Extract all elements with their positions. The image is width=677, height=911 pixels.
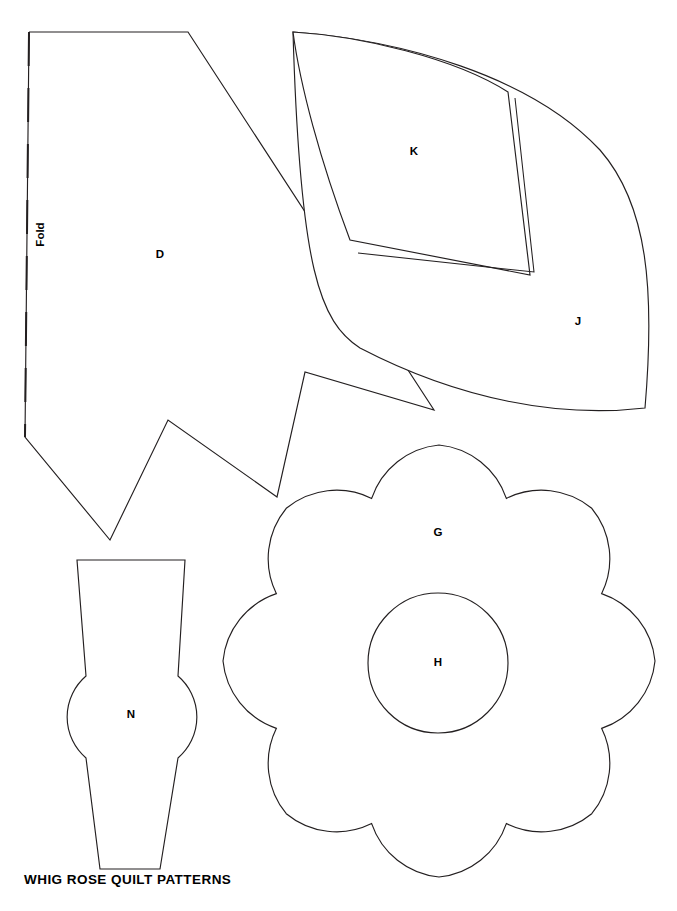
piece-j-label: J bbox=[575, 315, 581, 327]
pattern-sheet-drawing: D Fold J K G H N bbox=[0, 0, 677, 911]
piece-h-label: H bbox=[434, 656, 442, 668]
fold-label: Fold bbox=[34, 222, 46, 246]
piece-g-label: G bbox=[434, 526, 443, 538]
piece-h-group: H bbox=[368, 593, 508, 733]
piece-n-group: N bbox=[67, 560, 197, 869]
piece-n-label: N bbox=[127, 708, 135, 720]
piece-d-label: D bbox=[156, 248, 164, 260]
piece-k-label: K bbox=[410, 145, 419, 157]
sheet-caption: WHIG ROSE QUILT PATTERNS bbox=[24, 872, 231, 887]
quilt-pattern-page: D Fold J K G H N WHIG ROSE QUI bbox=[0, 0, 677, 911]
